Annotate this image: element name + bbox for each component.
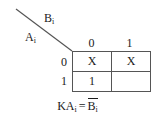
caption-rhs: B: [88, 99, 96, 113]
cell-r0-c0: X: [73, 52, 112, 72]
column-variable-subscript: i: [52, 17, 54, 26]
caption-lhs: KA: [57, 99, 74, 113]
cell-r0-c1: X: [112, 52, 151, 72]
column-header-0: 0: [73, 36, 110, 51]
caption-rhs-subscript: i: [96, 105, 98, 114]
column-header-1: 1: [111, 36, 148, 51]
caption-lhs-subscript: i: [75, 105, 77, 114]
karnaugh-map-figure: Bi Ai 0 1 0 1 X X 1 KAi=Bi: [0, 0, 155, 121]
kmap-table: X X 1: [72, 51, 151, 92]
row-header-1: 1: [58, 74, 70, 89]
caption-rhs-overline-group: Bi: [88, 98, 98, 114]
caption-equals: =: [79, 99, 86, 113]
column-variable-name: B: [44, 11, 52, 25]
caption: KAi=Bi: [0, 98, 155, 114]
row-variable-name: A: [25, 30, 34, 44]
row-header-0: 0: [58, 55, 70, 70]
table-row: X X: [73, 52, 151, 72]
cell-r1-c0: 1: [73, 72, 112, 92]
row-variable-subscript: i: [34, 36, 36, 45]
cell-r1-c1: [112, 72, 151, 92]
column-variable-label: Bi: [44, 12, 54, 24]
table-row: 1: [73, 72, 151, 92]
row-variable-label: Ai: [25, 31, 36, 43]
